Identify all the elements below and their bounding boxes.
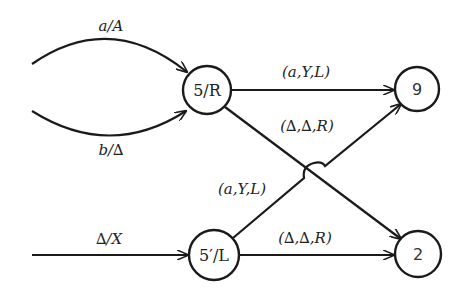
edge-in-a (32, 39, 187, 72)
edge-in-delta-label: ∆/X (96, 230, 124, 248)
edge-in-b (32, 111, 186, 136)
edge-in-b-label: b/∆ (98, 141, 123, 159)
node-5pL-label: 5′/L (199, 246, 229, 265)
edge-5R-2-label: (∆,∆,R) (280, 117, 334, 135)
edge-5R-9-label: (a,Y,L) (282, 63, 330, 81)
node-2-label: 2 (413, 245, 423, 264)
node-9-label: 9 (412, 80, 422, 99)
state-diagram: 5/R 9 5′/L 2 a/A b/∆ ∆/X (a,Y,L) (∆,∆,R)… (0, 0, 476, 301)
edge-5pL-9-label: (a,Y,L) (218, 180, 266, 198)
edge-in-a-label: a/A (99, 17, 124, 35)
edge-5pL-2-label: (∆,∆,R) (278, 229, 332, 247)
node-5R-label: 5/R (193, 81, 222, 100)
